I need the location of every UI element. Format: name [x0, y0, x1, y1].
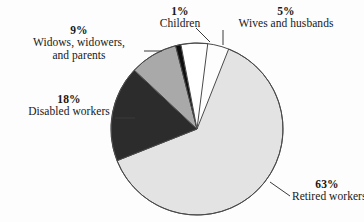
slice-label-children: 1% Children [143, 5, 217, 30]
slice-label-retired-workers: 63% Retired workers [292, 178, 362, 203]
leader-line-children [196, 28, 210, 42]
leader-line-retired [270, 182, 290, 196]
pie-slice-group [111, 43, 283, 215]
slice-percent-disabled-workers: 18% [5, 93, 133, 105]
slice-name-wives-and-husbands: Wives and husbands [212, 17, 360, 29]
slice-percent-wives-and-husbands: 5% [212, 5, 360, 17]
slice-name-widows-line-1: Widows, widowers, [16, 36, 142, 48]
pie-chart-figure: 1% Children 5% Wives and husbands 9% Wid… [0, 0, 364, 222]
slice-percent-retired-workers: 63% [292, 178, 362, 190]
slice-label-disabled-workers: 18% Disabled workers [5, 93, 133, 118]
slice-name-children: Children [143, 17, 217, 29]
slice-name-widows-line-2: and parents [16, 49, 142, 61]
slice-name-disabled-workers: Disabled workers [5, 105, 133, 117]
slice-percent-widows: 9% [16, 24, 142, 36]
slice-label-wives-and-husbands: 5% Wives and husbands [212, 5, 360, 30]
slice-percent-children: 1% [143, 5, 217, 17]
slice-name-retired-workers: Retired workers [292, 190, 362, 202]
slice-label-widows: 9% Widows, widowers, and parents [16, 24, 142, 61]
